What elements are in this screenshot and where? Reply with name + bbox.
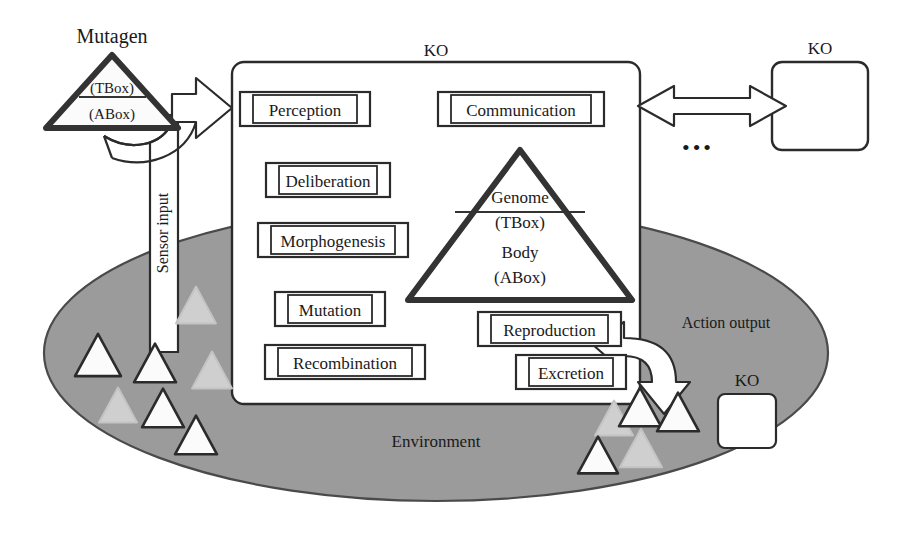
mutagen-tbox-label: (TBox) xyxy=(90,81,134,96)
genome-tbox-label: (TBox) xyxy=(495,214,545,231)
module-label-reproduction: Reproduction xyxy=(503,322,596,339)
environment-label: Environment xyxy=(392,433,481,450)
ko-main-label: KO xyxy=(424,42,449,59)
ko-environment-label: KO xyxy=(735,372,760,389)
ko-environment-box xyxy=(718,394,776,448)
module-label-perception: Perception xyxy=(269,102,342,119)
body-abox-label: (ABox) xyxy=(494,269,546,286)
communication-double-arrow xyxy=(638,86,786,126)
body-label: Body xyxy=(502,244,539,261)
module-label-excretion: Excretion xyxy=(538,365,604,382)
ko-peer-label: KO xyxy=(808,40,833,57)
diagram-canvas: Mutagen (TBox) (ABox) KO KO KO Genome (T… xyxy=(0,0,914,541)
module-label-communication: Communication xyxy=(466,102,576,119)
module-label-mutation: Mutation xyxy=(299,302,361,319)
sensor-input-label: Sensor input xyxy=(155,193,171,273)
mutagen-label: Mutagen xyxy=(76,26,147,46)
action-output-label: Action output xyxy=(682,315,770,331)
genome-label: Genome xyxy=(491,189,549,206)
module-label-recombination: Recombination xyxy=(293,355,397,372)
module-label-morphogenesis: Morphogenesis xyxy=(281,233,386,250)
ellipsis-label: ••• xyxy=(682,137,714,159)
diagram-svg xyxy=(0,0,914,541)
module-label-deliberation: Deliberation xyxy=(286,173,371,190)
mutagen-abox-label: (ABox) xyxy=(89,107,135,122)
